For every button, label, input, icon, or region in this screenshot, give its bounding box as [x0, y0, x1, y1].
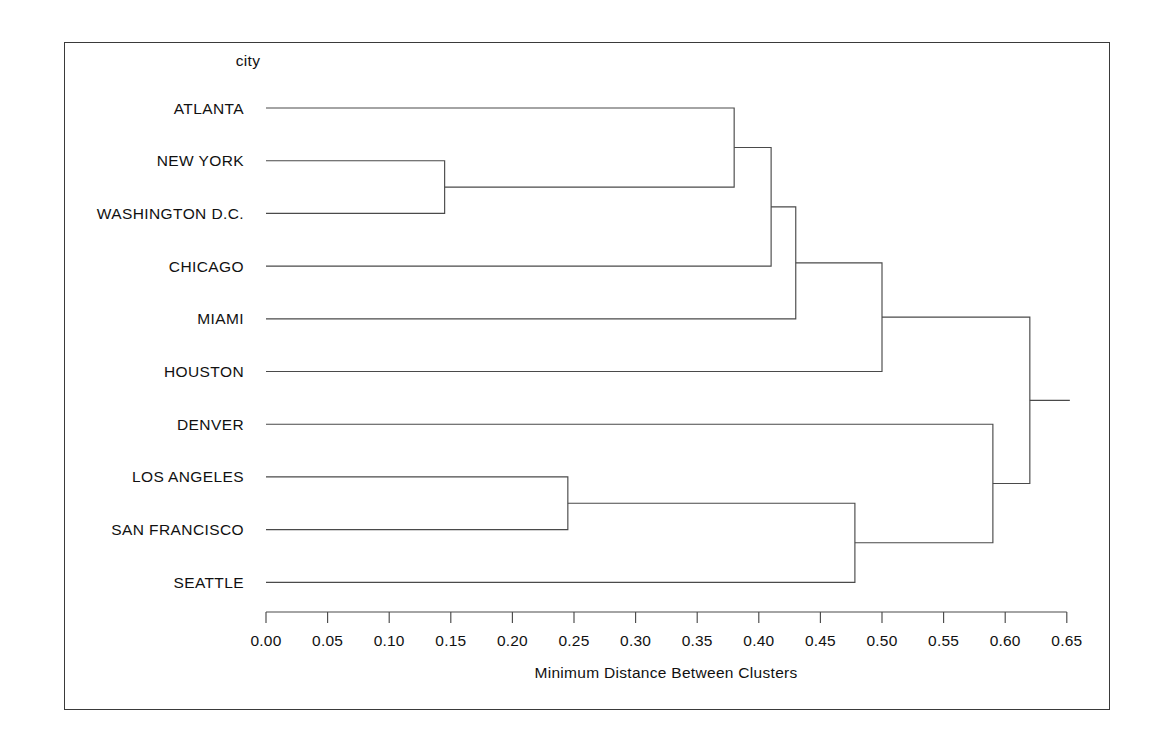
dendrogram-link — [882, 317, 1030, 483]
dendrogram-figure: ATLANTANEW YORKWASHINGTON D.C.CHICAGOMIA… — [0, 0, 1170, 755]
x-axis-title: Minimum Distance Between Clusters — [534, 664, 797, 681]
x-axis-tick-label: 0.30 — [620, 632, 651, 649]
leaf-label: DENVER — [177, 416, 244, 433]
x-axis-tick-label: 0.25 — [559, 632, 590, 649]
leaf-label: NEW YORK — [157, 152, 245, 169]
x-axis-tick-label: 0.45 — [805, 632, 836, 649]
x-axis-tick-label: 0.10 — [374, 632, 405, 649]
x-axis-tick-label: 0.50 — [867, 632, 898, 649]
leaf-label: MIAMI — [197, 310, 244, 327]
x-axis-tick-label: 0.20 — [497, 632, 528, 649]
leaf-label-group: ATLANTANEW YORKWASHINGTON D.C.CHICAGOMIA… — [97, 100, 244, 591]
x-axis-tick-label: 0.55 — [928, 632, 959, 649]
dendrogram-link — [266, 503, 855, 582]
dendrogram-canvas: ATLANTANEW YORKWASHINGTON D.C.CHICAGOMIA… — [0, 0, 1170, 755]
x-axis-tick-label: 0.65 — [1051, 632, 1082, 649]
leaf-label: CHICAGO — [169, 258, 244, 275]
dendrogram-link — [266, 108, 734, 187]
dendrogram-link — [266, 148, 771, 267]
column-title: city — [236, 52, 260, 69]
x-axis-tick-label: 0.35 — [682, 632, 713, 649]
leaf-label: WASHINGTON D.C. — [97, 205, 244, 222]
dendrogram-link — [266, 207, 796, 319]
leaf-label: LOS ANGELES — [132, 468, 244, 485]
dendrogram-link — [266, 161, 445, 214]
x-axis-tick-label: 0.40 — [743, 632, 774, 649]
x-axis-tick-label: 0.05 — [312, 632, 343, 649]
leaf-label: ATLANTA — [174, 100, 245, 117]
x-axis-tick-label: 0.60 — [990, 632, 1021, 649]
dendrogram-link-group — [266, 108, 1070, 582]
leaf-label: SAN FRANCISCO — [111, 521, 244, 538]
dendrogram-link — [266, 477, 568, 530]
x-axis-tick-label: 0.15 — [435, 632, 466, 649]
x-axis-group: 0.000.050.100.150.200.250.300.350.400.45… — [251, 612, 1083, 649]
dendrogram-link — [266, 424, 993, 543]
leaf-label: HOUSTON — [164, 363, 244, 380]
x-axis-tick-label: 0.00 — [251, 632, 282, 649]
dendrogram-link — [266, 263, 882, 372]
leaf-label: SEATTLE — [173, 574, 244, 591]
